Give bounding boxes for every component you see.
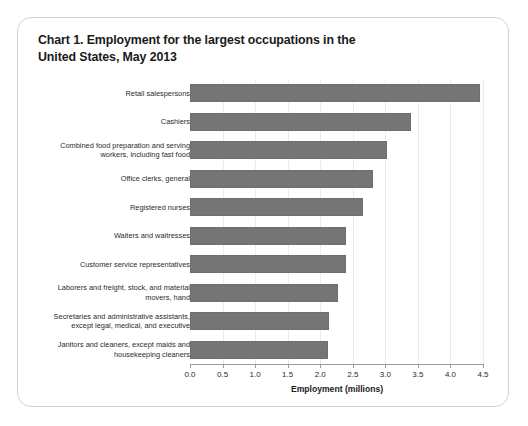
y-axis-label-line: workers, including fast food (30, 150, 190, 159)
x-axis-tick-label: 3.0 (368, 370, 402, 379)
x-axis-line (190, 364, 484, 365)
gridline (483, 79, 484, 364)
bar (190, 141, 387, 159)
x-axis-tick-label: 2.0 (303, 370, 337, 379)
y-axis-label-line: except legal, medical, and executive (30, 321, 190, 330)
y-axis-label: Secretaries and administrative assistant… (30, 312, 190, 331)
chart-plot-wrapper: Retail salespersonsCashiersCombined food… (18, 18, 510, 408)
y-axis-label-line: Cashiers (30, 117, 190, 126)
x-axis-tick-label: 3.5 (401, 370, 435, 379)
y-axis-label: Janitors and cleaners, except maids andh… (30, 340, 190, 359)
bar (190, 341, 328, 359)
x-axis-tick (320, 364, 321, 368)
y-axis-label-line: movers, hand (30, 293, 190, 302)
bar (190, 227, 346, 245)
bar (190, 170, 373, 188)
gridline (450, 79, 451, 364)
x-axis-tick-label: 2.5 (336, 370, 370, 379)
y-axis-label: Customer service representatives (30, 260, 190, 269)
bar (190, 198, 363, 216)
x-axis-tick-label: 4.5 (466, 370, 500, 379)
y-axis-label-line: housekeeping cleaners (30, 350, 190, 359)
x-axis-tick-label: 0.5 (206, 370, 240, 379)
y-axis-label: Combined food preparation and servingwor… (30, 141, 190, 160)
bar (190, 113, 411, 131)
y-axis-label: Retail salespersons (30, 89, 190, 98)
bar (190, 312, 329, 330)
x-axis-tick (255, 364, 256, 368)
y-axis-label-line: Waiters and waitresses (30, 231, 190, 240)
y-axis-label-line: Registered nurses (30, 203, 190, 212)
x-axis-tick (223, 364, 224, 368)
y-axis-label: Laborers and freight, stock, and materia… (30, 283, 190, 302)
x-axis-tick-label: 1.5 (271, 370, 305, 379)
y-axis-label: Registered nurses (30, 203, 190, 212)
x-axis-tick-label: 1.0 (238, 370, 272, 379)
x-axis-tick (385, 364, 386, 368)
y-axis-label-line: Office clerks, general (30, 174, 190, 183)
y-axis-label-line: Customer service representatives (30, 260, 190, 269)
x-axis-tick (450, 364, 451, 368)
y-axis-label-line: Secretaries and administrative assistant… (30, 312, 190, 321)
gridline (418, 79, 419, 364)
x-axis-tick (190, 364, 191, 368)
x-axis-tick-label: 4.0 (433, 370, 467, 379)
y-axis-category-labels: Retail salespersonsCashiersCombined food… (30, 79, 190, 364)
y-axis-label: Office clerks, general (30, 174, 190, 183)
y-axis-label-line: Laborers and freight, stock, and materia… (30, 283, 190, 292)
x-axis-title: Employment (millions) (190, 384, 484, 394)
y-axis-label-line: Retail salespersons (30, 89, 190, 98)
x-axis-tick (288, 364, 289, 368)
bar (190, 284, 338, 302)
bar (190, 84, 480, 102)
chart-card: Chart 1. Employment for the largest occu… (17, 17, 509, 407)
y-axis-label-line: Combined food preparation and serving (30, 141, 190, 150)
x-axis-tick-label: 0.0 (173, 370, 207, 379)
y-axis-label: Cashiers (30, 117, 190, 126)
y-axis-label: Waiters and waitresses (30, 231, 190, 240)
x-axis-tick (483, 364, 484, 368)
x-axis-tick (353, 364, 354, 368)
plot-area (190, 79, 483, 364)
x-axis-tick (418, 364, 419, 368)
bar (190, 255, 346, 273)
y-axis-label-line: Janitors and cleaners, except maids and (30, 340, 190, 349)
